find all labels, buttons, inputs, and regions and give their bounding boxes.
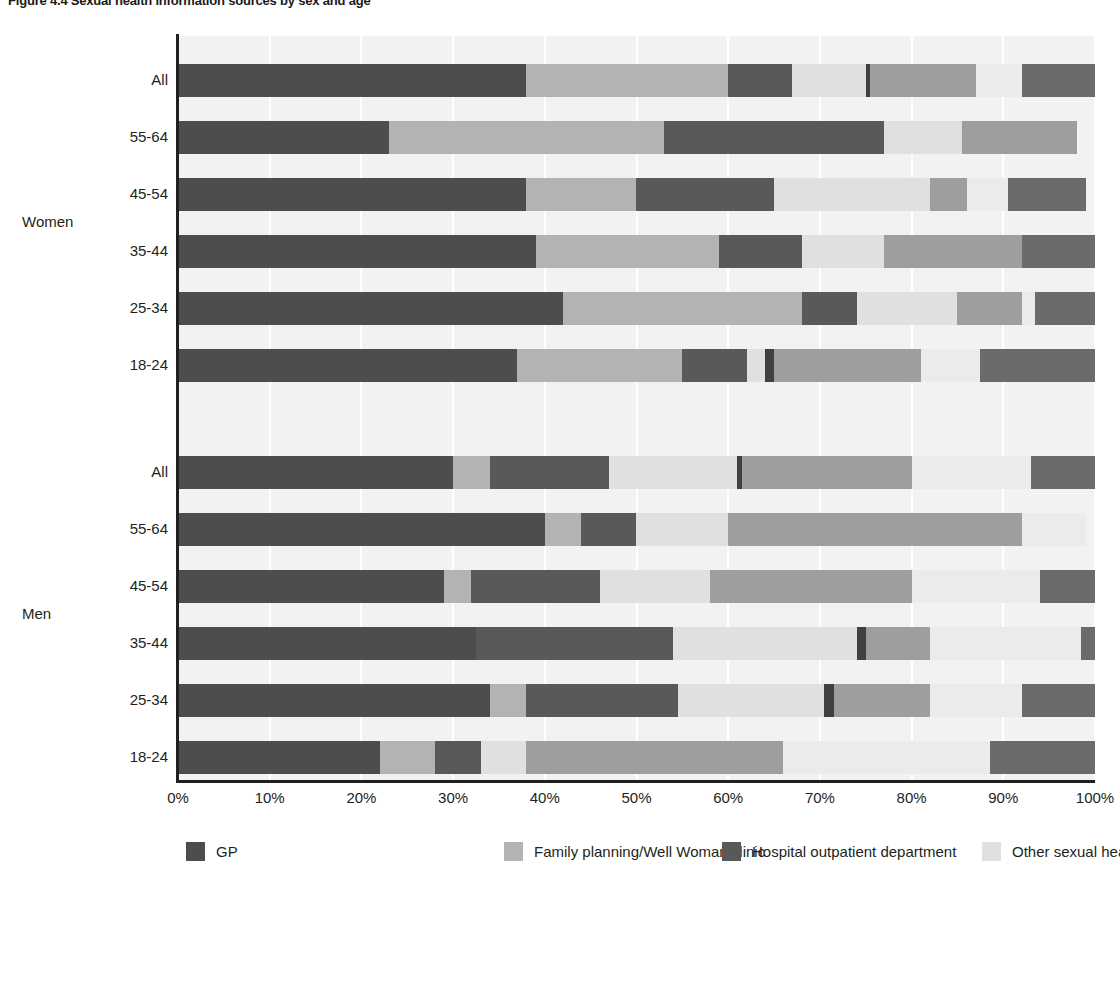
bar-segment[interactable] — [957, 292, 1021, 325]
bar-segment[interactable] — [765, 349, 774, 382]
bar-segment[interactable] — [178, 235, 536, 268]
bar-segment[interactable] — [526, 178, 636, 211]
bar-segment[interactable] — [930, 684, 1022, 717]
bar-segment[interactable] — [930, 178, 967, 211]
bar-segment[interactable] — [802, 235, 885, 268]
bar-segment[interactable] — [824, 684, 833, 717]
bar-row[interactable] — [178, 741, 1095, 774]
bar-segment[interactable] — [967, 178, 1008, 211]
bar-segment[interactable] — [380, 741, 435, 774]
bar-segment[interactable] — [857, 292, 958, 325]
bar-row[interactable] — [178, 235, 1095, 268]
bar-segment[interactable] — [710, 570, 912, 603]
bar-segment[interactable] — [178, 292, 563, 325]
bar-segment[interactable] — [1022, 64, 1095, 97]
bar-segment[interactable] — [719, 235, 802, 268]
bar-segment[interactable] — [866, 627, 930, 660]
bar-row[interactable] — [178, 627, 1095, 660]
bar-segment[interactable] — [870, 64, 975, 97]
legend-item[interactable]: Hospital outpatient department — [722, 842, 982, 861]
bar-segment[interactable] — [545, 513, 582, 546]
bar-segment[interactable] — [834, 684, 930, 717]
bar-segment[interactable] — [178, 456, 453, 489]
bar-row[interactable] — [178, 684, 1095, 717]
bar-segment[interactable] — [1022, 235, 1095, 268]
legend-label: Hospital outpatient department — [752, 843, 956, 860]
bar-segment[interactable] — [178, 741, 380, 774]
bar-segment[interactable] — [884, 121, 962, 154]
bar-row[interactable] — [178, 121, 1095, 154]
bar-segment[interactable] — [178, 570, 444, 603]
bar-segment[interactable] — [664, 121, 884, 154]
bar-segment[interactable] — [581, 513, 636, 546]
bar-segment[interactable] — [178, 178, 526, 211]
bar-segment[interactable] — [1040, 570, 1095, 603]
bar-segment[interactable] — [178, 627, 476, 660]
bar-segment[interactable] — [490, 456, 609, 489]
bar-segment[interactable] — [526, 64, 728, 97]
bar-segment[interactable] — [476, 627, 673, 660]
bar-segment[interactable] — [178, 64, 526, 97]
bar-segment[interactable] — [742, 456, 912, 489]
bar-segment[interactable] — [912, 456, 1031, 489]
bar-segment[interactable] — [1031, 456, 1095, 489]
bar-segment[interactable] — [976, 64, 1022, 97]
bar-segment[interactable] — [1081, 627, 1095, 660]
bar-segment[interactable] — [444, 570, 472, 603]
bar-segment[interactable] — [563, 292, 801, 325]
bar-segment[interactable] — [600, 570, 710, 603]
bar-row[interactable] — [178, 456, 1095, 489]
bar-segment[interactable] — [728, 64, 792, 97]
bar-segment[interactable] — [453, 456, 490, 489]
bar-segment[interactable] — [747, 349, 765, 382]
bar-segment[interactable] — [1022, 513, 1086, 546]
bar-segment[interactable] — [636, 513, 728, 546]
bar-segment[interactable] — [930, 627, 1081, 660]
bar-segment[interactable] — [980, 349, 1095, 382]
bar-segment[interactable] — [526, 741, 783, 774]
bar-segment[interactable] — [673, 627, 856, 660]
bar-segment[interactable] — [526, 684, 677, 717]
bar-row[interactable] — [178, 64, 1095, 97]
bar-row[interactable] — [178, 292, 1095, 325]
legend-item[interactable]: Family planning/Well Woman clinic — [504, 842, 722, 861]
bar-segment[interactable] — [536, 235, 719, 268]
bar-segment[interactable] — [921, 349, 981, 382]
bar-segment[interactable] — [783, 741, 989, 774]
bar-segment[interactable] — [678, 684, 825, 717]
bar-segment[interactable] — [912, 570, 1040, 603]
bar-segment[interactable] — [962, 121, 1077, 154]
bar-segment[interactable] — [1035, 292, 1095, 325]
bar-segment[interactable] — [178, 349, 517, 382]
bar-segment[interactable] — [178, 513, 545, 546]
bar-segment[interactable] — [481, 741, 527, 774]
bar-segment[interactable] — [728, 513, 1021, 546]
bar-segment[interactable] — [884, 235, 1022, 268]
bar-row[interactable] — [178, 513, 1095, 546]
bar-segment[interactable] — [857, 627, 866, 660]
bar-segment[interactable] — [435, 741, 481, 774]
bar-segment[interactable] — [1008, 178, 1086, 211]
bar-segment[interactable] — [178, 684, 490, 717]
bar-row[interactable] — [178, 349, 1095, 382]
bar-segment[interactable] — [471, 570, 599, 603]
y-axis-category-label: 45-54 — [0, 577, 168, 594]
bar-row[interactable] — [178, 178, 1095, 211]
bar-segment[interactable] — [802, 292, 857, 325]
bar-segment[interactable] — [792, 64, 865, 97]
bar-segment[interactable] — [517, 349, 682, 382]
bar-segment[interactable] — [609, 456, 737, 489]
bar-segment[interactable] — [490, 684, 527, 717]
legend-item[interactable]: Other sexual health centre — [982, 842, 1120, 861]
bar-row[interactable] — [178, 570, 1095, 603]
bar-segment[interactable] — [1022, 684, 1095, 717]
bar-segment[interactable] — [1022, 292, 1036, 325]
bar-segment[interactable] — [774, 349, 921, 382]
bar-segment[interactable] — [774, 178, 930, 211]
bar-segment[interactable] — [636, 178, 774, 211]
bar-segment[interactable] — [389, 121, 664, 154]
legend-item[interactable]: GP — [186, 842, 504, 861]
bar-segment[interactable] — [178, 121, 389, 154]
bar-segment[interactable] — [990, 741, 1095, 774]
bar-segment[interactable] — [682, 349, 746, 382]
